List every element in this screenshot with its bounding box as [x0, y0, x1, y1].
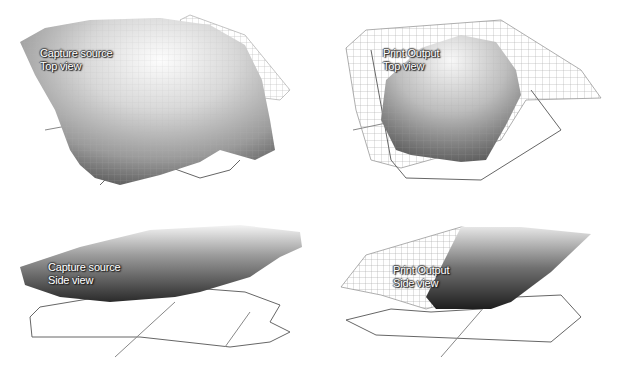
print-side-gamut-plot: [311, 187, 623, 374]
label-line-1: Capture source: [48, 261, 120, 274]
label-line-1: Capture source: [40, 47, 112, 60]
label-line-2: Side view: [393, 277, 449, 290]
label-line-2: Side view: [48, 274, 120, 287]
print-output-top-view-panel: Print Output Top view: [311, 0, 623, 187]
capture-side-label: Capture source Side view: [48, 261, 120, 287]
capture-source-top-view-panel: Capture source Top view: [0, 0, 311, 187]
capture-top-gamut-plot: [0, 0, 311, 187]
label-line-2: Top view: [40, 60, 112, 73]
label-line-1: Print Output: [383, 47, 439, 60]
label-line-1: Print Output: [393, 264, 449, 277]
print-output-side-view-panel: Print Output Side view: [311, 187, 623, 374]
print-top-label: Print Output Top view: [383, 47, 439, 73]
print-side-label: Print Output Side view: [393, 264, 449, 290]
capture-side-gamut-plot: [0, 187, 311, 374]
capture-source-side-view-panel: Capture source Side view: [0, 187, 311, 374]
label-line-2: Top view: [383, 60, 439, 73]
print-top-gamut-plot: [311, 0, 623, 187]
capture-top-label: Capture source Top view: [40, 47, 112, 73]
